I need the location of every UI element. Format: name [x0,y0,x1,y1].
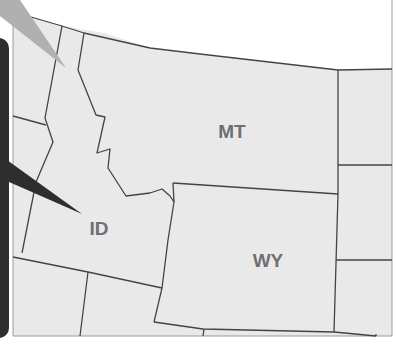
state-label-mt: MT [218,121,246,142]
state-label-id: ID [90,218,109,239]
map: MT ID WY [0,0,396,344]
state-label-wy: WY [253,250,284,271]
